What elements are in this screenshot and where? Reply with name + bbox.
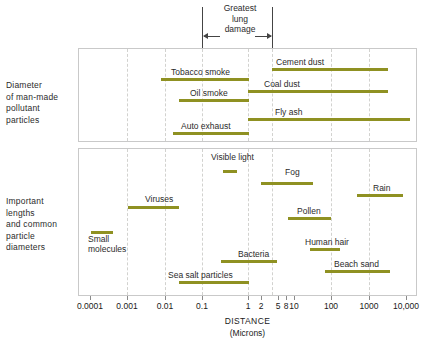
gridline-lower xyxy=(248,149,249,295)
bar-label-rain: Rain xyxy=(373,183,390,193)
axis-tick-label-1000: 1000 xyxy=(360,301,379,311)
axis-title: DISTANCE xyxy=(78,316,417,327)
bar-oil-smoke xyxy=(179,99,249,102)
bar-tobacco-smoke xyxy=(161,78,249,81)
chart-figure: Greatest lung damage Diameter of man-mad… xyxy=(0,0,445,358)
bar-fog xyxy=(261,182,313,185)
axis-tick-0.0001 xyxy=(90,296,91,300)
axis-tick-label-0.0001: 0.0001 xyxy=(77,301,103,311)
axis-tick-label-100: 100 xyxy=(324,301,338,311)
bar-cement-dust xyxy=(272,68,388,71)
gridline-lower xyxy=(369,149,370,295)
bar-label-tobacco-smoke: Tobacco smoke xyxy=(171,67,230,77)
bar-label-oil-smoke: Oil smoke xyxy=(190,88,228,98)
gridline-upper xyxy=(248,49,249,141)
bar-label-visible-light: Visible light xyxy=(211,152,254,162)
axis-tick-0.1 xyxy=(202,296,203,300)
bar-visible-light xyxy=(223,170,237,173)
bar-label-cement-dust: Cement dust xyxy=(276,57,324,67)
annotation-tick-right xyxy=(272,7,273,50)
bar-sea-salt-particles xyxy=(179,281,249,284)
bar-label-sea-salt-particles: Sea salt particles xyxy=(168,270,233,280)
axis-tick-0.001 xyxy=(127,296,128,300)
annotation-label: Greatest lung damage xyxy=(180,3,300,35)
bar-label-beach-sand: Beach sand xyxy=(334,259,379,269)
axis-tick-2 xyxy=(261,296,262,300)
axis-tick-label-5: 5 xyxy=(276,301,281,311)
bar-bacteria xyxy=(221,260,277,263)
arrow-right-icon xyxy=(267,33,272,39)
axis-tick-label-10: 10 xyxy=(289,301,298,311)
axis-tick-10,000 xyxy=(406,296,407,300)
bar-rain xyxy=(357,194,403,197)
axis-tick-1000 xyxy=(369,296,370,300)
bar-label-auto-exhaust: Auto exhaust xyxy=(181,121,231,131)
axis-units: (Microns) xyxy=(78,328,417,338)
axis-tick-8 xyxy=(286,296,287,300)
bar-coal-dust xyxy=(248,90,388,93)
gridline-lower xyxy=(127,149,128,295)
arrow-left-icon xyxy=(203,33,208,39)
bar-label-pollen: Pollen xyxy=(297,206,321,216)
bar-beach-sand xyxy=(325,270,390,273)
axis-tick-10 xyxy=(294,296,295,300)
gridline-upper xyxy=(331,49,332,141)
bar-label-coal-dust: Coal dust xyxy=(264,79,300,89)
bar-fly-ash xyxy=(248,118,410,121)
bar-viruses xyxy=(128,206,179,209)
bar-label-fly-ash: Fly ash xyxy=(275,107,302,117)
gridline-upper xyxy=(165,49,166,141)
bar-label-fog: Fog xyxy=(285,167,300,177)
gridline-upper xyxy=(272,49,273,141)
bar-auto-exhaust xyxy=(173,132,249,135)
gridline-lower xyxy=(331,149,332,295)
axis-tick-label-10,000: 10,000 xyxy=(393,301,419,311)
gridline-lower xyxy=(272,149,273,295)
upper-panel-side-label: Diameter of man-made pollutant particles xyxy=(6,80,78,126)
axis-tick-1 xyxy=(248,296,249,300)
axis-tick-5 xyxy=(278,296,279,300)
gridline-upper xyxy=(369,49,370,141)
annotation-tick-left xyxy=(202,7,203,50)
axis-tick-100 xyxy=(331,296,332,300)
bar-label-bacteria: Bacteria xyxy=(238,249,269,259)
gridline-upper xyxy=(127,49,128,141)
lower-panel-side-label: Important lengths and common particle di… xyxy=(6,196,78,254)
axis-tick-label-0.001: 0.001 xyxy=(116,301,137,311)
bar-label-small-molecules: Small molecules xyxy=(88,234,128,254)
bar-label-viruses: Viruses xyxy=(145,194,173,204)
axis-tick-label-2: 2 xyxy=(259,301,264,311)
bar-label-human-hair: Human hair xyxy=(305,237,349,247)
axis-tick-label-0.1: 0.1 xyxy=(196,301,208,311)
axis-tick-label-8: 8 xyxy=(284,301,289,311)
gridline-lower xyxy=(165,149,166,295)
bar-pollen xyxy=(288,217,331,220)
bar-human-hair xyxy=(310,248,340,251)
axis-tick-label-1: 1 xyxy=(246,301,251,311)
axis-tick-0.01 xyxy=(165,296,166,300)
axis-tick-label-0.01: 0.01 xyxy=(157,301,174,311)
